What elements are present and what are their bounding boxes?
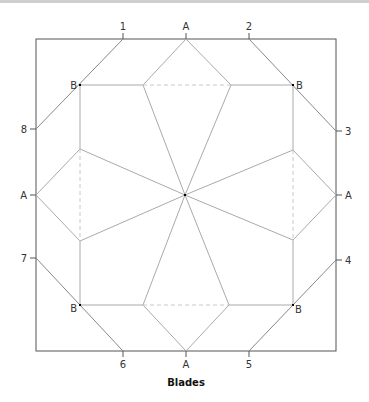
label-top-1: 1: [120, 21, 126, 32]
label-top-a: A: [183, 21, 190, 32]
label-bottom-5: 5: [246, 359, 252, 370]
label-b-top-right: B: [296, 80, 303, 91]
label-b-top-left: B: [70, 80, 77, 91]
point-b-top-left: [79, 84, 81, 86]
point-b-top-right: [292, 84, 294, 86]
label-b-bottom-right: B: [295, 304, 302, 315]
diagram-caption: Blades: [167, 377, 205, 388]
center-point: [184, 194, 186, 196]
reference-points: [79, 84, 294, 306]
label-b-bottom-left: B: [70, 303, 77, 314]
point-b-bottom-right: [292, 304, 294, 306]
label-top-2: 2: [246, 21, 252, 32]
label-right-a: A: [345, 190, 352, 201]
label-left-8: 8: [21, 124, 27, 135]
blades-diagram: 1 A 2 6 A 5 8 A 7 3 A 4 B B B B Blades: [0, 0, 369, 402]
point-b-bottom-left: [79, 304, 81, 306]
label-left-a: A: [20, 190, 27, 201]
label-right-3: 3: [345, 126, 351, 137]
label-left-7: 7: [21, 253, 27, 264]
dashed-folds: [80, 85, 293, 305]
label-bottom-a: A: [183, 359, 190, 370]
label-bottom-6: 6: [120, 359, 126, 370]
label-right-4: 4: [345, 255, 351, 266]
